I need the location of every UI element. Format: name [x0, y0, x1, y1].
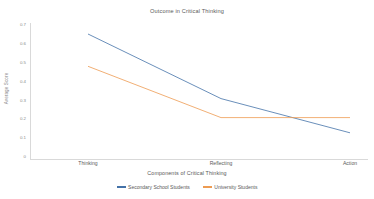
legend-item-university-students[interactable]: University Students	[203, 184, 258, 190]
line-university-students	[88, 66, 350, 117]
chart-container: Outcome in Critical Thinking Average Sco…	[0, 0, 374, 199]
legend-swatch-icon	[203, 186, 212, 187]
legend-item-secondary-school-students[interactable]: Secondary School Students	[117, 184, 190, 190]
legend-label: Secondary School Students	[128, 184, 190, 190]
legend-label: University Students	[214, 184, 257, 190]
chart-legend: Secondary School Students University Stu…	[0, 184, 374, 190]
legend-swatch-icon	[117, 186, 126, 187]
x-axis-title: Components of Critical Thinking	[0, 170, 374, 176]
